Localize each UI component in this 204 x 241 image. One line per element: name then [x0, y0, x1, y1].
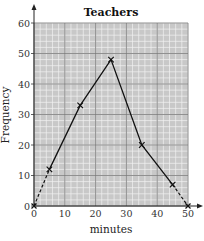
y-axis-label: Frequency: [0, 87, 11, 144]
y-tick-label: 20: [18, 140, 30, 151]
y-tick-label: 60: [18, 18, 30, 29]
y-tick-label: 30: [18, 109, 30, 120]
chart-title: Teachers: [84, 6, 139, 19]
plot-area: [32, 4, 204, 209]
x-tick-label: 30: [120, 208, 132, 219]
x-tick-label: 40: [151, 208, 163, 219]
x-axis-label: minutes: [90, 223, 133, 235]
y-tick-label: 10: [18, 170, 30, 181]
x-tick-label: 0: [31, 208, 37, 219]
x-tick-label: 50: [182, 208, 194, 219]
x-tick-label: 20: [90, 208, 102, 219]
x-tick-label: 10: [59, 208, 71, 219]
y-tick-label: 50: [18, 48, 30, 59]
y-axis-arrow-icon: [32, 4, 37, 10]
x-axis-arrow-icon: [197, 204, 203, 209]
frequency-polygon-chart: Teachers 010203040500102030405060 minute…: [0, 0, 204, 241]
y-tick-label: 0: [24, 201, 30, 212]
y-tick-label: 40: [18, 79, 30, 90]
